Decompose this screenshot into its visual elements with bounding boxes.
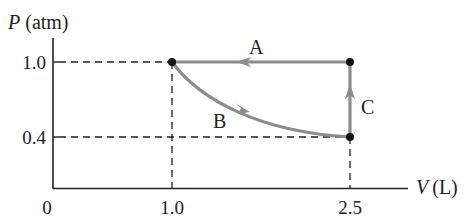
state-point-3 (346, 133, 354, 141)
y-tick-label-1-0: 1.0 (22, 52, 46, 73)
y-tick-label-0-4: 0.4 (22, 127, 46, 148)
x-tick-label-1-0: 1.0 (160, 197, 184, 218)
path-label-b: B (213, 110, 226, 132)
pv-diagram: P(atm) 1.0 0.4 0 1.0 2.5 V(L) A B C (0, 0, 472, 223)
guide-lines (59, 62, 350, 188)
y-axis-label: P(atm) (7, 11, 69, 34)
state-point-2 (346, 58, 354, 66)
x-axis-label: V(L) (416, 176, 458, 199)
path-c (345, 62, 355, 137)
x-tick-label-2-5: 2.5 (338, 197, 362, 218)
path-label-c: C (361, 96, 374, 118)
path-a (172, 57, 350, 67)
path-b (172, 62, 350, 137)
state-point-1 (168, 58, 176, 66)
path-label-a: A (249, 36, 264, 58)
x-tick-label-0: 0 (42, 197, 52, 218)
